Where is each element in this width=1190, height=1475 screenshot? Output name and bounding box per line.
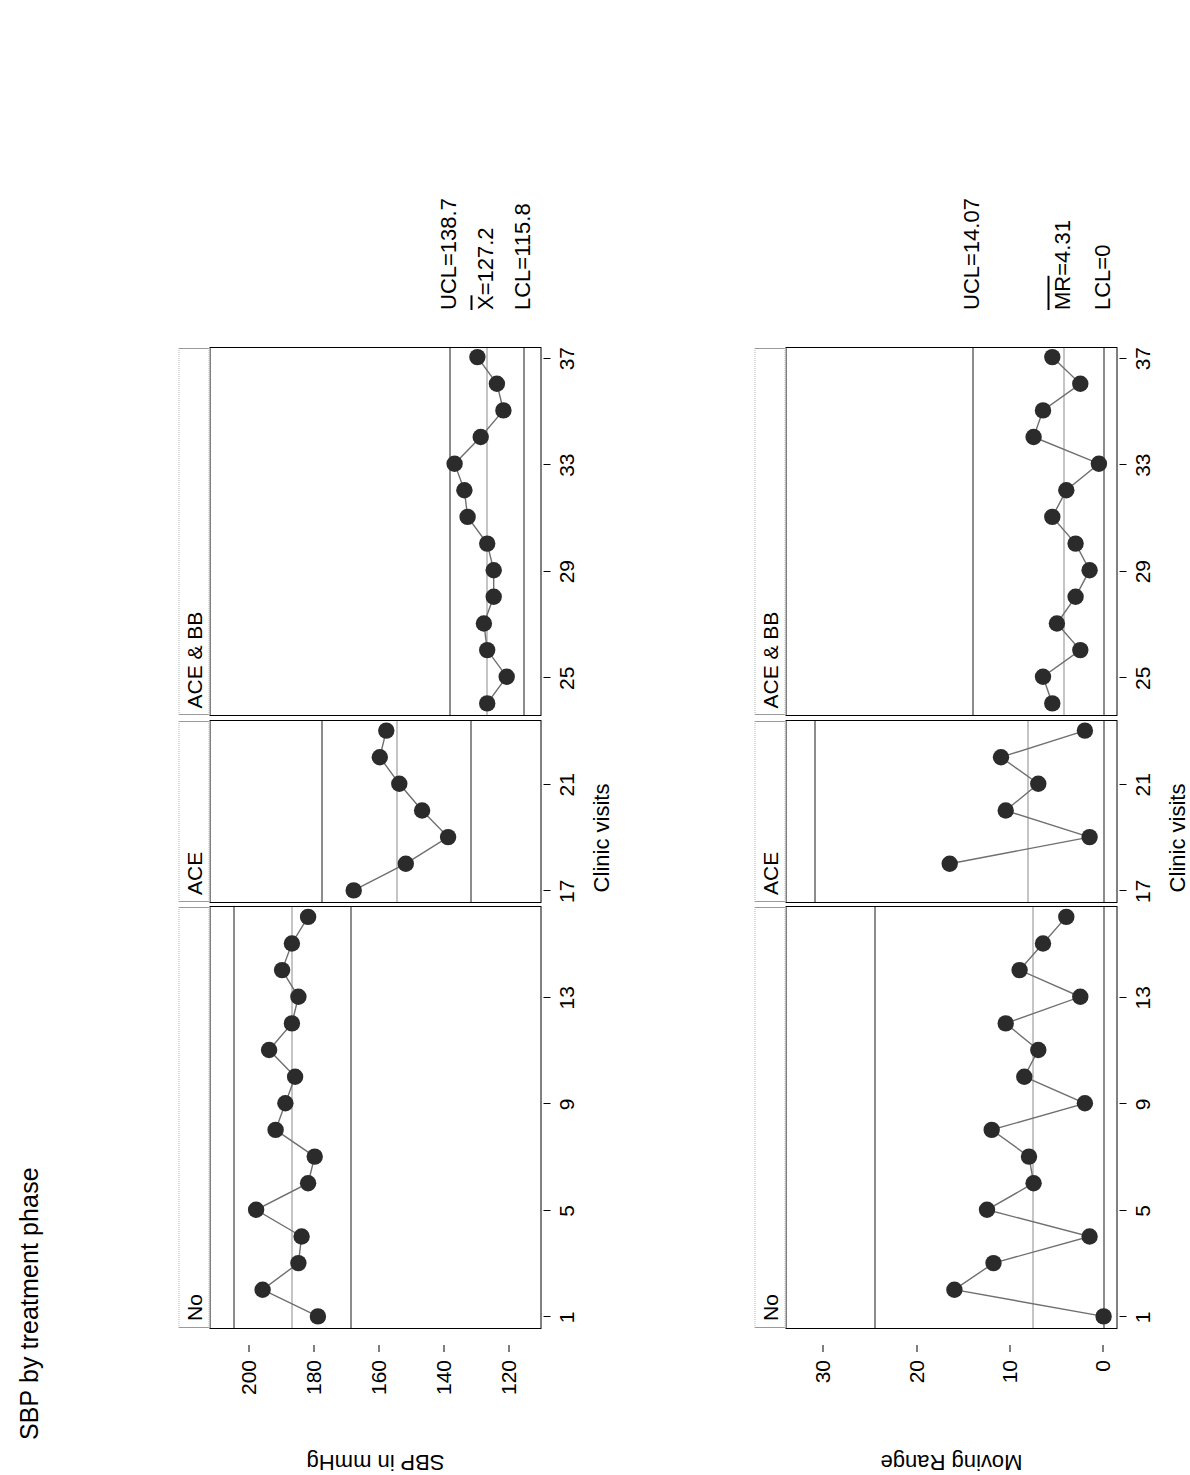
facet-strip-text: ACE & BB — [758, 612, 782, 709]
data-point — [456, 483, 472, 499]
ucl-annotation: UCL=138.7 — [435, 198, 461, 310]
x-axis-tick-label: 25 — [554, 667, 578, 690]
data-point — [479, 696, 495, 712]
data-point — [1034, 669, 1050, 685]
series-group — [786, 346, 1118, 716]
data-point — [485, 589, 501, 605]
data-point — [371, 749, 387, 765]
y-axis-tick-label: 180 — [301, 1360, 325, 1422]
x-axis-tick — [1119, 677, 1126, 678]
y-axis-tick — [1009, 1345, 1010, 1352]
series-line — [949, 731, 1089, 864]
data-point — [413, 802, 429, 818]
x-axis-tick-label: 33 — [554, 453, 578, 476]
x-axis-tick-label: 5 — [1130, 1205, 1154, 1217]
x-axis-tick-label: 1 — [1130, 1312, 1154, 1324]
x-axis-tick-label: 33 — [1130, 453, 1154, 476]
x-axis-tick-label: 13 — [1130, 986, 1154, 1009]
x-axis-tick — [1119, 1103, 1126, 1104]
x-axis-tick — [1119, 890, 1126, 891]
data-point — [983, 1122, 999, 1138]
x-axis-tick — [543, 997, 550, 998]
data-point — [1044, 349, 1060, 365]
data-point — [479, 536, 495, 552]
data-point — [459, 509, 475, 525]
y-axis-tick — [822, 1345, 823, 1352]
x-axis-tick — [1119, 1316, 1126, 1317]
x-axis-tick — [543, 784, 550, 785]
x-axis-tick — [1119, 358, 1126, 359]
x-axis-tick-label: 29 — [1130, 560, 1154, 583]
x-axis-tick — [543, 890, 550, 891]
data-point — [290, 1255, 306, 1271]
y-axis-tick — [916, 1345, 917, 1352]
data-point — [1081, 1228, 1097, 1244]
y-axis-tick-label: 140 — [431, 1360, 455, 1422]
data-point — [1081, 829, 1097, 845]
x-axis-tick — [543, 1316, 550, 1317]
facet-panel-2: ACE — [209, 720, 541, 903]
center-annotation: X=127.2 — [472, 227, 498, 310]
annotation-text: =4.31 — [1049, 220, 1074, 276]
data-point — [345, 882, 361, 898]
x-axis-tick-label: 9 — [1130, 1098, 1154, 1110]
facet-strip-label: ACE & BB — [754, 348, 785, 716]
data-point — [1081, 563, 1097, 579]
x-axis-tick-label: 13 — [554, 986, 578, 1009]
series-group — [210, 719, 542, 902]
data-point — [1095, 1308, 1111, 1324]
x-axis-tick-label: 1 — [554, 1312, 578, 1324]
facet-strip-label: ACE & BB — [178, 348, 209, 716]
data-point — [978, 1202, 994, 1218]
facet-strip-text: No — [758, 1294, 782, 1321]
data-point — [254, 1282, 270, 1298]
lcl-annotation: LCL=115.8 — [509, 203, 535, 310]
y-axis-tick — [508, 1345, 509, 1352]
facet-strip-text: No — [182, 1294, 206, 1321]
y-axis-tick — [1102, 1345, 1103, 1352]
annotation-text: =127.2 — [472, 227, 497, 295]
moving-range-chart: NoACEACE & BB0102030Moving Range15913172… — [785, 0, 1117, 1462]
data-point — [1076, 1095, 1092, 1111]
data-point — [997, 1015, 1013, 1031]
y-axis-tick — [378, 1345, 379, 1352]
x-axis-label: Clinic visits — [588, 784, 614, 893]
data-point — [1058, 909, 1074, 925]
x-axis-label: Clinic visits — [1164, 784, 1190, 893]
data-point — [946, 1282, 962, 1298]
data-point — [391, 776, 407, 792]
facet-strip-label: ACE — [754, 721, 785, 902]
data-point — [1034, 935, 1050, 951]
data-point — [299, 909, 315, 925]
data-point — [1058, 483, 1074, 499]
facet-panel-3: ACE & BB — [209, 347, 541, 717]
data-point — [941, 855, 957, 871]
series-group — [210, 346, 542, 716]
y-axis-tick — [443, 1345, 444, 1352]
data-point — [1048, 616, 1064, 632]
x-axis-tick — [1119, 997, 1126, 998]
center-annotation: MR=4.31 — [1049, 220, 1075, 310]
x-axis-tick-label: 9 — [554, 1098, 578, 1110]
data-point — [378, 722, 394, 738]
facet-panel-2: ACE — [785, 720, 1117, 903]
data-point — [1072, 642, 1088, 658]
data-point — [1067, 589, 1083, 605]
x-axis-tick — [1119, 464, 1126, 465]
series-group — [786, 905, 1118, 1328]
data-point — [498, 669, 514, 685]
data-point — [267, 1122, 283, 1138]
data-point — [247, 1202, 263, 1218]
data-point — [488, 376, 504, 392]
facet-panel-3: ACE & BB — [785, 347, 1117, 717]
data-point — [485, 563, 501, 579]
data-point — [277, 1095, 293, 1111]
x-axis-tick — [543, 677, 550, 678]
overline-symbol: MR — [1049, 276, 1074, 310]
data-point — [479, 642, 495, 658]
data-point — [273, 962, 289, 978]
y-axis-tick-label: 160 — [366, 1360, 390, 1422]
facet-strip-text: ACE & BB — [182, 612, 206, 709]
x-axis-tick-label: 21 — [554, 773, 578, 796]
